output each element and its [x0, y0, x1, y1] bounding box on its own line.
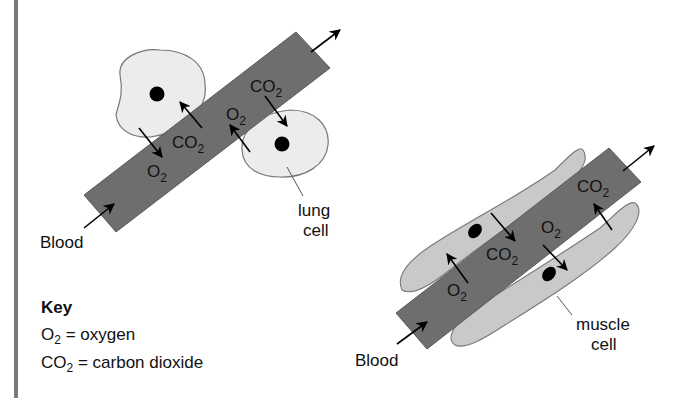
muscle-blood-label: Blood	[355, 351, 398, 370]
muscle-cell-label-line1: muscle	[576, 315, 630, 334]
key-title: Key	[41, 297, 203, 319]
key-symbol-sub: 2	[54, 333, 61, 347]
muscle-cell-label-line2: cell	[591, 335, 617, 354]
muscle-cell-callout-line	[557, 296, 572, 315]
key-symbol-base: CO	[41, 353, 67, 372]
lung-diagram: O2 CO2 O2 CO2 lung cell Blood	[40, 30, 340, 252]
key-meaning: = oxygen	[61, 325, 135, 344]
key-item-carbon-dioxide: CO2 = carbon dioxide	[41, 349, 203, 377]
lung-cell-label-line1: lung	[298, 201, 330, 220]
muscle-diagram: O2 CO2 O2 CO2 muscle cell Blood	[355, 146, 654, 370]
lung-cell-nucleus-lower	[275, 137, 290, 152]
lung-cell-label-line2: cell	[303, 221, 329, 240]
lung-cell-nucleus-upper	[150, 87, 165, 102]
key-symbol-base: O	[41, 325, 54, 344]
lung-blood-out-arrow	[311, 30, 340, 52]
lung-blood-label: Blood	[40, 233, 83, 252]
key-meaning: = carbon dioxide	[73, 353, 203, 372]
key-item-oxygen: O2 = oxygen	[41, 321, 203, 349]
muscle-blood-out-arrow	[623, 146, 654, 171]
legend-key: Key O2 = oxygen CO2 = carbon dioxide	[41, 297, 203, 377]
